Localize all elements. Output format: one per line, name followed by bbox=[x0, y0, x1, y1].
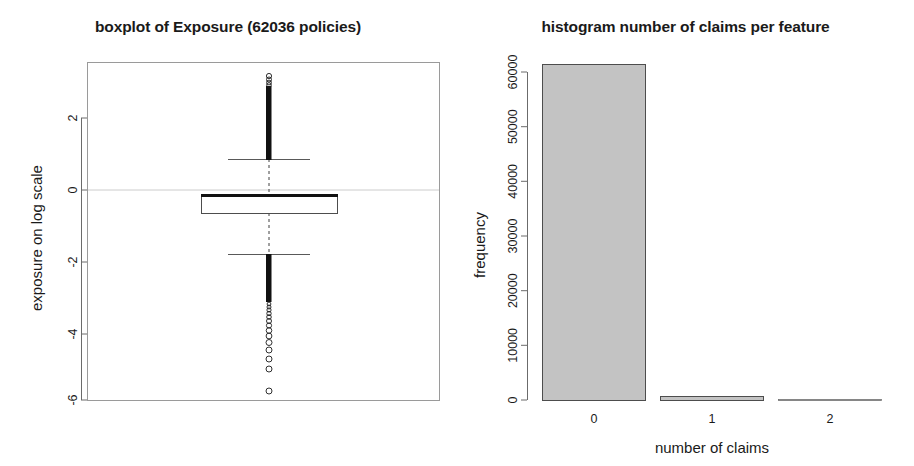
boxplot-ytick-3: -4 bbox=[66, 328, 80, 339]
boxplot-y-axis-label: exposure on log scale bbox=[28, 165, 45, 311]
histogram-ytick-60000: 60000 bbox=[506, 55, 520, 90]
histogram-bar-0 bbox=[543, 65, 646, 401]
histogram-ytick-50000: 50000 bbox=[506, 109, 520, 144]
boxplot-ytick-1: 0 bbox=[66, 186, 80, 193]
boxplot-svg: 2 0 -2 -4 -6 exposure on log scale bbox=[0, 0, 457, 466]
boxplot-panel: boxplot of Exposure (62036 policies) 2 0… bbox=[0, 0, 457, 466]
histogram-bar-1 bbox=[661, 397, 764, 401]
upper-outlier-cluster bbox=[266, 86, 272, 160]
histogram-xtick-1: 1 bbox=[709, 412, 716, 426]
lower-outlier-points bbox=[266, 302, 272, 394]
upper-outlier-points bbox=[266, 73, 271, 87]
lower-outlier-cluster bbox=[266, 254, 272, 302]
histogram-panel: histogram number of claims per feature 6… bbox=[457, 0, 914, 466]
boxplot-glyph bbox=[201, 73, 338, 394]
interquartile-box bbox=[202, 195, 338, 214]
boxplot-frame bbox=[88, 63, 440, 401]
histogram-ytick-40000: 40000 bbox=[506, 164, 520, 199]
histogram-x-axis-label: number of claims bbox=[655, 439, 769, 456]
histogram-ytick-20000: 20000 bbox=[506, 273, 520, 308]
histogram-ytick-10000: 10000 bbox=[506, 328, 520, 363]
boxplot-ytick-2: -2 bbox=[66, 256, 80, 267]
histogram-y-axis bbox=[521, 72, 528, 400]
histogram-ytick-0: 0 bbox=[506, 396, 520, 403]
histogram-y-axis-label: frequency bbox=[471, 212, 488, 278]
histogram-svg: 60000 50000 40000 30000 20000 10000 0 fr… bbox=[457, 0, 914, 466]
histogram-bar-2 bbox=[779, 400, 882, 401]
boxplot-y-tickmarks bbox=[81, 118, 87, 400]
boxplot-ytick-4: -6 bbox=[66, 394, 80, 405]
histogram-ytick-30000: 30000 bbox=[506, 219, 520, 254]
histogram-xtick-2: 2 bbox=[827, 412, 834, 426]
boxplot-ytick-0: 2 bbox=[66, 114, 80, 121]
histogram-xtick-0: 0 bbox=[591, 412, 598, 426]
